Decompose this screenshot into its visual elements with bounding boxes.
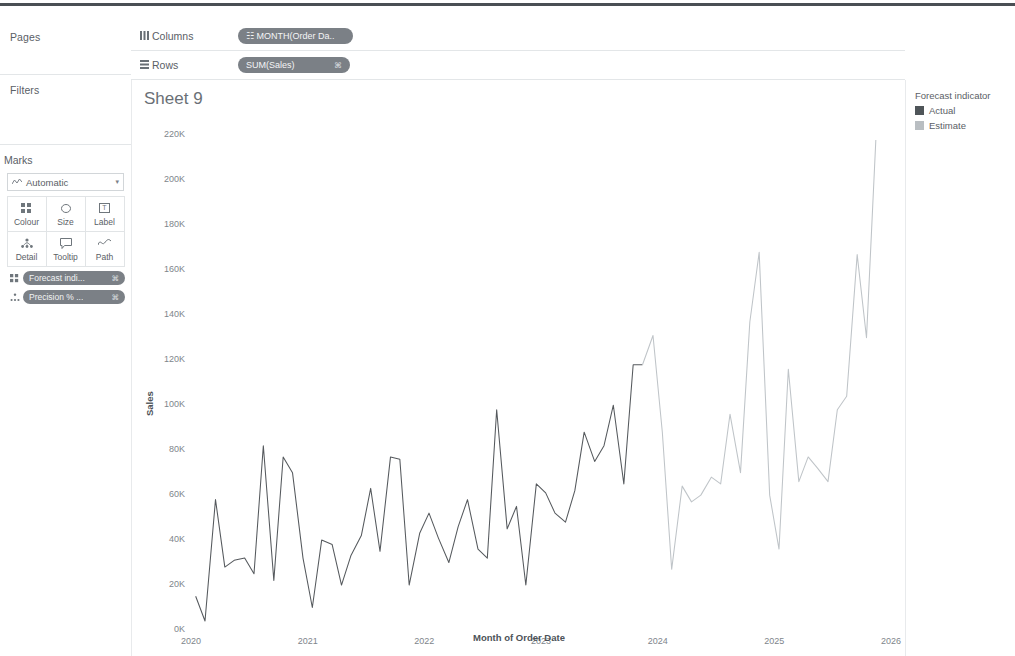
y-axis-tick: 40K — [145, 534, 185, 544]
pages-label: Pages — [0, 22, 131, 43]
filters-label: Filters — [0, 75, 131, 96]
line-series-estimate — [643, 140, 876, 569]
columns-shelf[interactable]: Columns ☷ MONTH(Order Da.. — [131, 22, 905, 51]
pill-sum-sales-label: SUM(Sales) — [246, 60, 295, 70]
path-icon — [98, 236, 111, 251]
y-axis-tick: 200K — [145, 174, 185, 184]
marks-button-detail[interactable]: Detail — [7, 231, 47, 267]
marks-label: Marks — [0, 145, 131, 173]
marks-button-grid: Colour Size — [7, 196, 124, 266]
shelf-area: Columns ☷ MONTH(Order Da.. Rows SUM(Sale… — [131, 22, 905, 80]
card-pill-forecast-indicator-label: Forecast indi... — [29, 273, 85, 283]
rows-icon — [136, 60, 152, 71]
rows-shelf[interactable]: Rows SUM(Sales) ⌘ — [131, 51, 905, 80]
card-pill-forecast-indicator-tag: ⌘ — [112, 274, 120, 283]
window-top-rule — [0, 3, 1015, 6]
pages-shelf[interactable]: Pages — [0, 22, 131, 75]
marks-button-size[interactable]: Size — [46, 196, 86, 232]
marks-button-detail-label: Detail — [16, 253, 38, 262]
detail-icon — [8, 293, 21, 302]
pill-sum-sales-tag: ⌘ — [334, 61, 342, 70]
y-axis-tick: 180K — [145, 219, 185, 229]
line-chart — [191, 113, 891, 630]
legend-label-actual: Actual — [929, 105, 955, 116]
page-title: Sheet 9 — [144, 89, 203, 109]
chevron-down-icon[interactable]: ▾ — [115, 178, 119, 186]
colour-icon — [21, 201, 32, 216]
y-axis-tick: 220K — [145, 129, 185, 139]
marks-button-tooltip-label: Tooltip — [53, 253, 78, 262]
mark-type-selector[interactable]: Automatic ▾ — [7, 173, 124, 191]
y-axis-tick: 100K — [145, 399, 185, 409]
marks-button-label-label: Label — [94, 218, 115, 227]
legend-swatch-estimate — [915, 121, 924, 130]
pill-month-order-date[interactable]: ☷ MONTH(Order Da.. — [238, 28, 353, 44]
columns-shelf-label: Columns — [152, 30, 238, 42]
y-axis-tick: 60K — [145, 489, 185, 499]
x-axis-title: Month of Order Date — [132, 632, 906, 643]
columns-icon — [136, 31, 152, 42]
card-pill-precision-tag: ⌘ — [112, 293, 120, 302]
marks-button-size-label: Size — [57, 218, 74, 227]
detail-icon — [21, 236, 33, 251]
legend-swatch-actual — [915, 106, 924, 115]
y-axis-tick: 120K — [145, 354, 185, 364]
legend-item-actual[interactable]: Actual — [906, 101, 1015, 116]
rows-shelf-label: Rows — [152, 59, 238, 71]
marks-button-path[interactable]: Path — [85, 231, 125, 267]
label-icon: T — [99, 201, 110, 216]
y-axis-tick: 140K — [145, 309, 185, 319]
marks-card: Marks Automatic ▾ — [0, 145, 131, 312]
worksheet-view: Sheet 9 Sales 0K20K40K60K80K100K120K140K… — [131, 80, 905, 656]
legend-panel: Forecast indicator Actual Estimate — [905, 80, 1015, 656]
y-axis-tick: 20K — [145, 579, 185, 589]
tableau-worksheet: Pages Filters Marks Automatic ▾ — [0, 0, 1015, 656]
left-panel: Pages Filters Marks Automatic ▾ — [0, 22, 131, 656]
marks-button-path-label: Path — [96, 253, 114, 262]
filters-shelf[interactable]: Filters — [0, 75, 131, 145]
legend-label-estimate: Estimate — [929, 120, 966, 131]
tooltip-icon — [60, 236, 72, 251]
line-mark-icon — [12, 177, 22, 187]
marks-button-label[interactable]: T Label — [85, 196, 125, 232]
line-series-actual — [196, 365, 643, 621]
chart-plot-area — [191, 113, 891, 630]
card-pill-precision-label: Precision % ... — [29, 292, 83, 302]
y-axis-tick: 80K — [145, 444, 185, 454]
colour-icon — [8, 274, 21, 283]
svg-text:T: T — [102, 205, 107, 212]
marks-card-pill-forecast-indicator[interactable]: Forecast indi... ⌘ — [8, 271, 125, 285]
marks-button-tooltip[interactable]: Tooltip — [46, 231, 86, 267]
legend-title: Forecast indicator — [906, 80, 1015, 101]
pill-sum-sales[interactable]: SUM(Sales) ⌘ — [238, 57, 350, 73]
marks-button-colour-label: Colour — [14, 218, 39, 227]
legend-item-estimate[interactable]: Estimate — [906, 116, 1015, 131]
mark-type-label: Automatic — [26, 177, 115, 188]
y-axis-tick: 160K — [145, 264, 185, 274]
size-icon — [60, 201, 72, 216]
marks-button-colour[interactable]: Colour — [7, 196, 47, 232]
pill-month-order-date-label: ☷ MONTH(Order Da.. — [246, 31, 335, 41]
marks-card-pill-precision[interactable]: Precision % ... ⌘ — [8, 290, 125, 304]
